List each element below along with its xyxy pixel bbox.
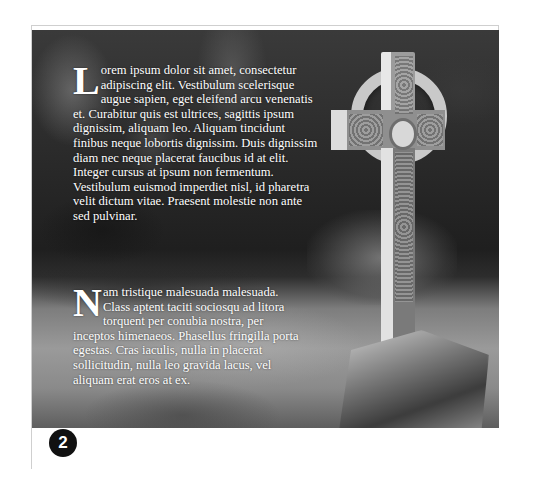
celtic-cross-illustration xyxy=(329,40,479,428)
knotwork-left xyxy=(349,114,383,146)
page-card: Lorem ipsum dolor sit amet, consectetur … xyxy=(31,25,499,469)
knotwork-right xyxy=(417,114,443,146)
knotwork-shaft xyxy=(395,152,413,302)
paragraph-1: Lorem ipsum dolor sit amet, consectetur … xyxy=(73,63,318,224)
paragraph-2: Nam tristique malesuada malesuada. Class… xyxy=(73,285,308,387)
page-number-badge: 2 xyxy=(49,429,77,457)
dropcap-2: N xyxy=(73,287,102,319)
page-footer: 2 xyxy=(32,428,499,469)
background-photo: Lorem ipsum dolor sit amet, consectetur … xyxy=(32,30,499,428)
knotwork-top xyxy=(395,56,413,114)
paragraph-2-text: am tristique malesuada malesuada. Class … xyxy=(73,285,299,387)
paragraph-1-text: orem ipsum dolor sit amet, consectetur a… xyxy=(73,63,317,223)
cross-stone-base xyxy=(339,330,489,428)
cross-center-boss xyxy=(389,118,417,150)
dropcap-1: L xyxy=(73,65,100,97)
